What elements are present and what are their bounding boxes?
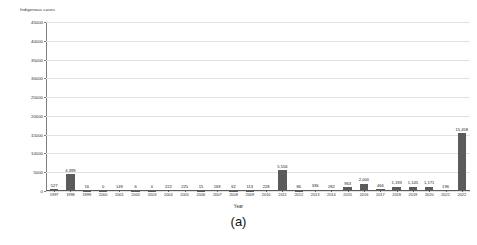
bar-value-label: 963 — [344, 182, 351, 186]
bar-column[interactable]: 0 — [148, 22, 156, 191]
bar-rect[interactable] — [278, 170, 286, 191]
x-tick-label: 2010 — [262, 192, 271, 197]
y-tick-label: 10000 — [31, 151, 43, 156]
x-tick-label: 2020 — [425, 192, 434, 197]
bar-column[interactable]: 282 — [327, 22, 335, 191]
bar-value-label: 282 — [328, 185, 335, 189]
x-tick-label: 2006 — [197, 192, 206, 197]
bar-column[interactable]: 228 — [262, 22, 270, 191]
x-tick-label: 2018 — [392, 192, 401, 197]
bar-value-label: 16 — [84, 185, 89, 189]
bar-value-label: 228 — [263, 185, 270, 189]
x-tick-label: 2003 — [148, 192, 157, 197]
bar-value-label: 0 — [151, 185, 153, 189]
x-tick-label: 2022 — [458, 192, 467, 197]
bar-column[interactable]: 169 — [213, 22, 221, 191]
bar-column[interactable]: 1,171 — [425, 22, 433, 191]
x-tick-label: 2017 — [376, 192, 385, 197]
bar-column[interactable]: 15 — [197, 22, 205, 191]
bar-value-label: 1,193 — [391, 181, 401, 185]
x-tick-label: 2009 — [246, 192, 255, 197]
x-tick-label: 2013 — [311, 192, 320, 197]
x-tick-label: 2004 — [164, 192, 173, 197]
bar-column[interactable]: 4,399 — [66, 22, 74, 191]
bar-value-label: 527 — [51, 184, 58, 188]
y-tick-label: 25000 — [31, 95, 43, 100]
bar-column[interactable]: 222 — [164, 22, 172, 191]
bar-column[interactable]: 225 — [180, 22, 188, 191]
x-tick-label: 2005 — [180, 192, 189, 197]
bar-value-label: 336 — [312, 184, 319, 188]
bar-value-label: 169 — [214, 185, 221, 189]
bar-value-label: 225 — [181, 185, 188, 189]
bar-value-label: 113 — [247, 185, 254, 189]
bar-value-label: 196 — [442, 185, 449, 189]
bar-rect[interactable] — [458, 133, 466, 191]
figure-panel-a: Indigenous cases 05000100001500020000250… — [0, 0, 477, 245]
bar-column[interactable]: 16 — [83, 22, 91, 191]
figure-caption: (a) — [0, 214, 477, 229]
bar-value-label: 15 — [199, 185, 204, 189]
x-tick-label: 1998 — [66, 192, 75, 197]
bar-value-label: 86 — [296, 185, 301, 189]
bar-value-label: 1,171 — [424, 181, 434, 185]
y-tick-label: 30000 — [31, 76, 43, 81]
bar-column[interactable]: 113 — [246, 22, 254, 191]
bar-value-label: 5,556 — [277, 165, 287, 169]
x-tick-label: 2016 — [360, 192, 369, 197]
bar-value-label: 4,399 — [65, 169, 75, 173]
bar-column[interactable]: 466 — [376, 22, 384, 191]
y-axis-title: Indigenous cases — [20, 7, 55, 12]
bar-value-label: 6 — [135, 185, 137, 189]
x-tick-label: 2012 — [294, 192, 303, 197]
bar-column[interactable]: 2,000 — [360, 22, 368, 191]
x-tick-label: 2000 — [99, 192, 108, 197]
bar-series: 5274,3991601496022222515169621132285,556… — [46, 22, 470, 191]
bar-value-label: 466 — [377, 184, 384, 188]
bar-value-label: 15,458 — [456, 128, 469, 132]
bar-column[interactable]: 62 — [229, 22, 237, 191]
x-tick-label: 2011 — [278, 192, 286, 197]
bar-column[interactable]: 963 — [343, 22, 351, 191]
y-tick-label: 0 — [41, 189, 43, 194]
y-tick-label: 40000 — [31, 38, 43, 43]
x-tick-label: 2014 — [327, 192, 336, 197]
bar-column[interactable]: 1,193 — [392, 22, 400, 191]
bar-column[interactable]: 149 — [115, 22, 123, 191]
bar-value-label: 149 — [116, 185, 123, 189]
x-tick-label: 2019 — [409, 192, 418, 197]
bar-column[interactable]: 0 — [99, 22, 107, 191]
bar-column[interactable]: 15,458 — [458, 22, 466, 191]
bar-column[interactable]: 527 — [50, 22, 58, 191]
x-axis-tick-labels: 1997199819992000200120022003200420052006… — [46, 192, 470, 202]
bar-value-label: 62 — [231, 185, 236, 189]
y-tick-label: 5000 — [33, 170, 43, 175]
bar-value-label: 0 — [102, 185, 104, 189]
x-tick-label: 2021 — [441, 192, 450, 197]
bar-column[interactable]: 86 — [295, 22, 303, 191]
bar-value-label: 1,145 — [408, 181, 418, 185]
y-tick-label: 35000 — [31, 57, 43, 62]
bar-column[interactable]: 336 — [311, 22, 319, 191]
x-axis-title: Year — [0, 204, 477, 209]
bar-rect[interactable] — [66, 174, 74, 191]
x-tick-label: 2001 — [115, 192, 124, 197]
plot-area: 0500010000150002000025000300003500040000… — [46, 22, 470, 191]
x-tick-label: 2015 — [343, 192, 352, 197]
bar-column[interactable]: 1,145 — [409, 22, 417, 191]
x-tick-label: 2002 — [131, 192, 140, 197]
bar-value-label: 2,000 — [359, 178, 369, 182]
x-tick-label: 1997 — [50, 192, 59, 197]
y-tick-label: 45000 — [31, 20, 43, 25]
x-tick-label: 2008 — [229, 192, 238, 197]
x-tick-label: 1999 — [82, 192, 91, 197]
y-tick-label: 15000 — [31, 132, 43, 137]
bar-column[interactable]: 5,556 — [278, 22, 286, 191]
x-tick-label: 2007 — [213, 192, 222, 197]
bar-column[interactable]: 6 — [131, 22, 139, 191]
bar-value-label: 222 — [165, 185, 172, 189]
bar-column[interactable]: 196 — [441, 22, 449, 191]
y-tick-label: 20000 — [31, 113, 43, 118]
